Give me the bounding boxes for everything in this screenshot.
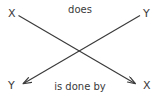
edge-line-does — [19, 16, 136, 84]
edge-label-does: does — [0, 4, 160, 15]
diagram-canvas: X Y Y X does is done by — [0, 0, 160, 100]
edge-line-is-done-by — [24, 16, 141, 84]
edge-label-is-done-by: is done by — [0, 81, 160, 92]
